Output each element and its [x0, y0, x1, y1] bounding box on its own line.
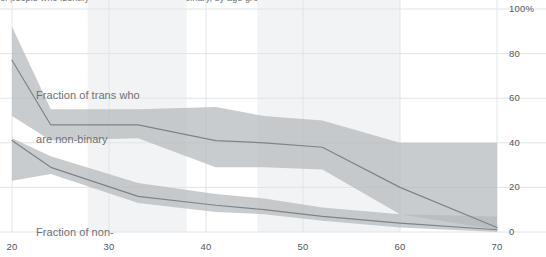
y-tick-label-60: 60: [509, 93, 520, 103]
x-tick-label-40: 40: [201, 241, 212, 252]
annotation-line-1: Fraction of non-: [36, 225, 137, 240]
y-tick-label-20: 20: [509, 182, 520, 192]
x-tick-label-20: 20: [7, 241, 18, 252]
series-annotation-nonbinary-trans: Fraction of non- binary who are trans: [36, 196, 137, 257]
annotation-line-2: are non-binary: [36, 132, 140, 147]
x-tick-label-50: 50: [298, 241, 309, 252]
series-annotation-trans-nonbinary: Fraction of trans who are non-binary: [36, 59, 140, 175]
x-tick-label-70: 70: [492, 241, 503, 252]
y-tick-label-40: 40: [509, 138, 520, 148]
y-tick-label-80: 80: [509, 49, 520, 59]
annotation-line-1: Fraction of trans who: [36, 88, 140, 103]
chart-figure: of people who identify as transgender or…: [0, 0, 546, 257]
y-tick-label-100: 100%: [509, 4, 534, 14]
y-tick-label-0: 0: [509, 227, 514, 237]
x-tick-label-60: 60: [395, 241, 406, 252]
